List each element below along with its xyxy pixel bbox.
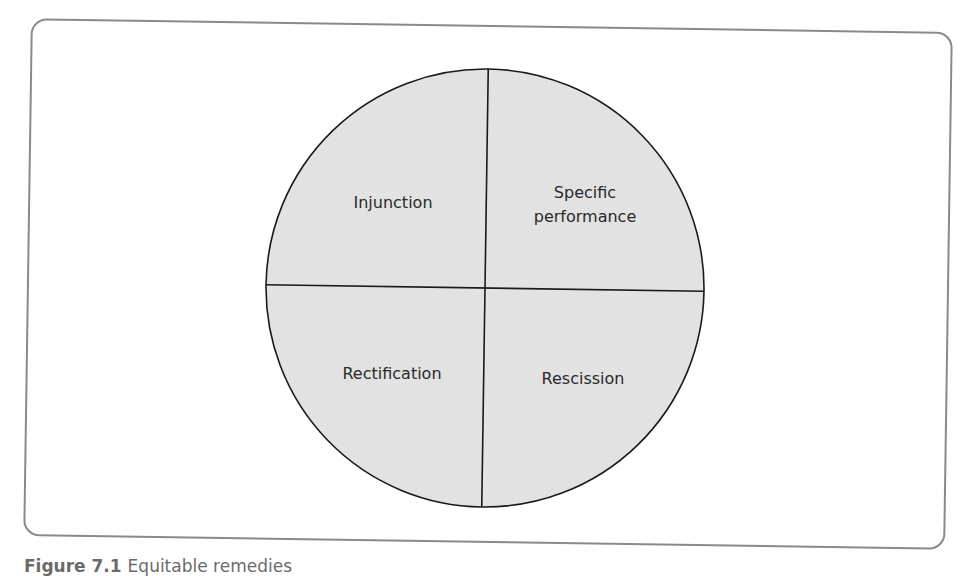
- quadrant-label-rescission: Rescission: [542, 369, 625, 388]
- quadrant-label-specific-performance-line2: performance: [534, 207, 636, 226]
- quadrant-label-specific-performance-line1: Specific: [554, 183, 616, 202]
- figure-number: Figure 7.1: [24, 556, 122, 576]
- quadrant-label-injunction: Injunction: [353, 193, 432, 212]
- figure-caption: Figure 7.1 Equitable remedies: [24, 556, 292, 576]
- quadrant-label-rectification: Rectification: [342, 364, 441, 383]
- figure-caption-text: Equitable remedies: [128, 556, 292, 576]
